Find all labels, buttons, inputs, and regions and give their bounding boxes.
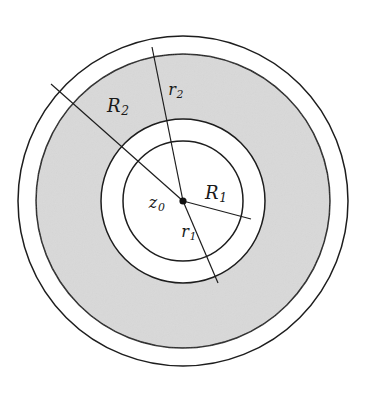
label-R1-sub: 1 (219, 191, 227, 205)
label-r1-sub: 1 (190, 230, 197, 243)
label-r2-base: r (168, 80, 176, 99)
label-r1-base: r (181, 222, 189, 241)
annulus-diagram-svg (0, 0, 371, 397)
center-point-dot (179, 197, 186, 204)
label-R1: R1 (205, 184, 227, 205)
label-z0-base: z (149, 193, 158, 212)
label-r1: r1 (181, 224, 196, 243)
label-R1-base: R (205, 182, 219, 203)
label-z0: z0 (149, 195, 165, 214)
label-z0-sub: 0 (158, 201, 165, 214)
label-r2-sub: 2 (177, 88, 184, 101)
label-R2-sub: 2 (121, 104, 129, 118)
annulus-diagram-figure: R2 r2 R1 z0 r1 (0, 0, 371, 397)
label-R2-base: R (107, 95, 121, 116)
label-r2: r2 (168, 82, 183, 101)
label-R2: R2 (107, 97, 129, 118)
